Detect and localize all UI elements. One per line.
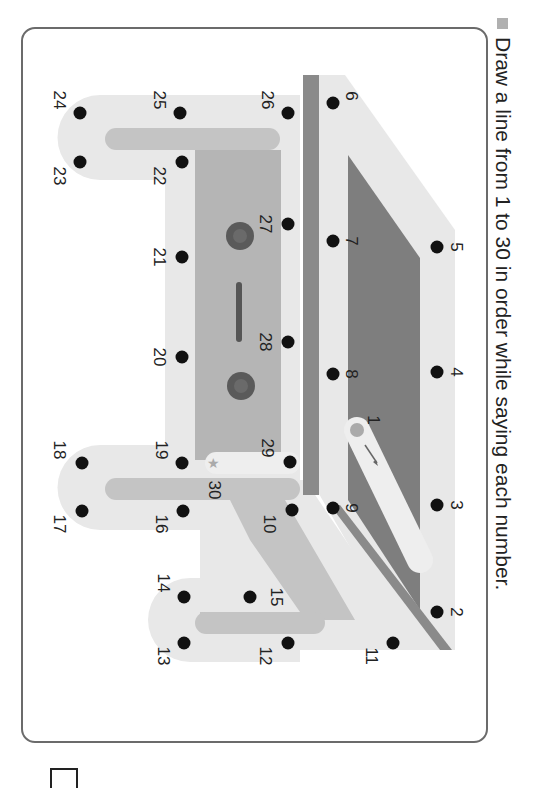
dot-label-4: 4	[447, 367, 466, 376]
dot-14[interactable]	[178, 591, 191, 604]
dot-label-21: 21	[150, 248, 169, 267]
dot-19[interactable]	[176, 457, 189, 470]
dot-label-8: 8	[342, 369, 361, 378]
dot-label-20: 20	[150, 348, 169, 367]
dot-11[interactable]	[387, 637, 400, 650]
dot-28[interactable]	[282, 336, 295, 349]
dot-label-5: 5	[447, 242, 466, 251]
dot-24[interactable]	[74, 107, 87, 120]
dot-label-28: 28	[256, 333, 275, 352]
dot-21[interactable]	[176, 251, 189, 264]
dot-label-14: 14	[154, 574, 173, 593]
rail-stripe	[303, 75, 319, 495]
dot-label-2: 2	[447, 607, 466, 616]
dot-label-12: 12	[256, 647, 275, 666]
dot-22[interactable]	[176, 156, 189, 169]
dot-label-3: 3	[447, 500, 466, 509]
dot-label-22: 22	[150, 167, 169, 186]
dot-17[interactable]	[76, 505, 89, 518]
dot-label-25: 25	[150, 91, 169, 110]
dot-7[interactable]	[327, 235, 340, 248]
dot-10[interactable]	[286, 504, 299, 517]
dot-label-13: 13	[154, 647, 173, 666]
dot-label-9: 9	[342, 503, 361, 512]
dot-label-15: 15	[267, 588, 286, 607]
dot-15[interactable]	[244, 591, 257, 604]
dot-label-23: 23	[50, 167, 69, 186]
dot-label-24: 24	[50, 91, 69, 110]
dot-3[interactable]	[431, 499, 444, 512]
dot-6[interactable]	[327, 97, 340, 110]
dot-8[interactable]	[327, 368, 340, 381]
dot-12[interactable]	[282, 637, 295, 650]
dot-label-30: 30	[205, 481, 224, 500]
dot-label-11: 11	[362, 647, 381, 665]
dot-label-26: 26	[258, 91, 277, 110]
checkbox[interactable]	[50, 768, 78, 788]
dot-9[interactable]	[327, 502, 340, 515]
dot-23[interactable]	[74, 156, 87, 169]
dot-18[interactable]	[76, 457, 89, 470]
dot-5[interactable]	[431, 241, 444, 254]
star-icon: ★	[207, 455, 220, 471]
mouth-line	[236, 282, 242, 342]
dot-label-1: 1	[364, 415, 383, 424]
dot-label-10: 10	[260, 515, 279, 534]
dot-label-7: 7	[342, 236, 361, 245]
dot-2[interactable]	[431, 606, 444, 619]
dot-25[interactable]	[174, 107, 187, 120]
dot-27[interactable]	[282, 218, 295, 231]
dot-label-27: 27	[256, 215, 275, 234]
dot-4[interactable]	[431, 366, 444, 379]
dot-label-19: 19	[152, 441, 171, 460]
dot-13[interactable]	[178, 637, 191, 650]
dot-26[interactable]	[282, 107, 295, 120]
dot-label-18: 18	[50, 441, 69, 460]
dot-29[interactable]	[284, 456, 297, 469]
dot-label-17: 17	[50, 515, 69, 534]
dot-16[interactable]	[177, 505, 190, 518]
dot-20[interactable]	[176, 351, 189, 364]
dot-label-29: 29	[258, 439, 277, 458]
dot-label-6: 6	[342, 91, 361, 100]
dot-label-16: 16	[152, 515, 171, 534]
